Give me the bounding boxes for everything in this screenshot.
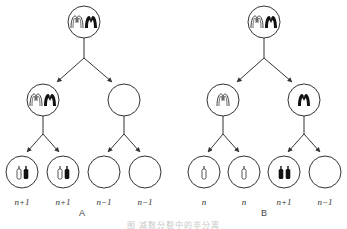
panel-a-gamete-4 (129, 156, 161, 188)
gamete-label: n+1 (14, 197, 29, 207)
panel-b-gamete-3 (268, 156, 300, 188)
meiosis-nondisjunction-diagram (0, 0, 347, 229)
panel-b-label: B (261, 208, 267, 218)
panel-a-label: A (79, 208, 85, 218)
panel-a-gamete-3 (88, 156, 120, 188)
gamete-label: n (202, 197, 207, 207)
gamete-label: n (242, 197, 247, 207)
figure-caption: 图 减数分裂中的非分离 (127, 219, 220, 229)
arrow-icon (57, 58, 84, 82)
gamete-label: n−1 (137, 197, 152, 207)
panel-a (6, 6, 161, 188)
panel-a-mi-cell-2-empty (108, 84, 140, 116)
panel-a-gamete-2 (47, 156, 79, 188)
gamete-label: n+1 (55, 197, 70, 207)
arrow-icon (84, 58, 112, 82)
panel-b-gamete-4 (309, 156, 341, 188)
gamete-label: n−1 (317, 197, 332, 207)
gamete-label: n+1 (276, 197, 291, 207)
gamete-label: n−1 (96, 197, 111, 207)
panel-b (188, 6, 341, 188)
panel-a-gamete-1 (6, 156, 38, 188)
